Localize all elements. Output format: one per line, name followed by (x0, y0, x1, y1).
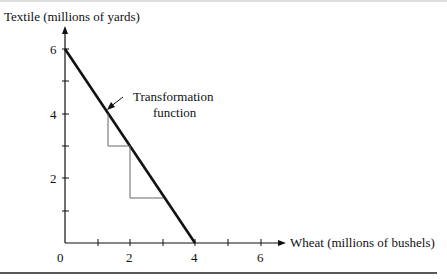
annotation-line2: function (153, 105, 197, 120)
chart: Textile (millions of yards) 0 2 4 6 2 4 … (0, 0, 447, 279)
x-tick-label-6: 6 (257, 250, 264, 265)
x-tick-label-2: 2 (126, 250, 133, 265)
annotation-line1: Transformation (133, 89, 214, 104)
x-axis-arrow-icon (278, 240, 286, 246)
y-axis-label: Textile (millions of yards) (4, 9, 140, 24)
x-tick-label-0: 0 (57, 250, 64, 265)
annotation-arrow-icon (107, 102, 115, 110)
y-tick-label-4: 4 (50, 107, 57, 122)
y-tick-label-2: 2 (50, 171, 57, 186)
x-axis-label: Wheat (millions of bushels) (290, 235, 435, 250)
y-axis-arrow-icon (62, 26, 68, 34)
y-tick-label-6: 6 (50, 42, 57, 57)
x-tick-label-4: 4 (191, 250, 198, 265)
